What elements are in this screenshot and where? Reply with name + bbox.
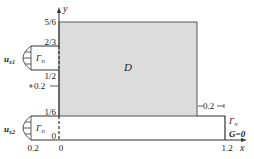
velocity-lower-label: ux2: [4, 124, 15, 135]
y-tick-1-2: 1/2: [44, 71, 56, 81]
gamma-n-label: ΓN: [228, 116, 238, 127]
y-axis-arrow: [57, 7, 61, 13]
gamma-d-upper-label: ΓD: [35, 53, 45, 64]
x-tick-0-2: 0.2: [27, 143, 38, 153]
y-tick-5-6: 5/6: [44, 17, 56, 27]
x-tick-1-2: 1.2: [221, 143, 232, 153]
flow-domain-diagram: 0.2 0.2 5/6 2/3 1/2 1/6 0 0.2 0 1.2 y x …: [0, 0, 254, 159]
parabolic-profile-upper-icon: [23, 46, 31, 70]
y-tick-2-3: 2/3: [44, 37, 56, 47]
domain-label: D: [123, 61, 132, 73]
y-axis-label: y: [62, 3, 68, 14]
dimension-right-label: 0.2: [203, 101, 214, 111]
dimension-left-label: 0.2: [34, 81, 45, 91]
velocity-upper-label: ux1: [4, 54, 15, 65]
y-tick-0: 0: [52, 131, 57, 141]
y-tick-1-6: 1/6: [44, 107, 56, 117]
x-tick-0: 0: [59, 143, 64, 153]
parabolic-profile-lower-icon: [23, 116, 31, 140]
outlet-condition-label: G=0: [229, 129, 246, 139]
x-axis-label: x: [239, 142, 245, 153]
outlet-boundary: [197, 116, 225, 140]
gamma-d-lower-label: ΓD: [35, 123, 45, 134]
